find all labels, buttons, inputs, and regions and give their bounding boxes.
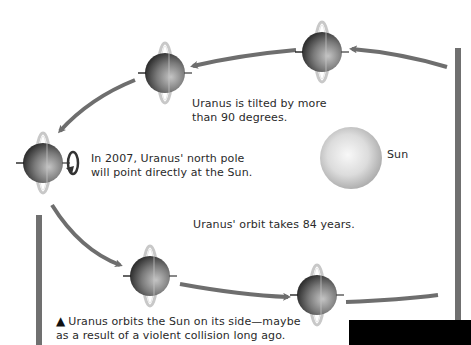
tilt-label: Uranus is tilted by more than 90 degrees… (192, 97, 327, 125)
rotation-arrow-icon (66, 152, 78, 174)
figure-caption: ▲Uranus orbits the Sun on its side—maybe… (56, 314, 301, 343)
orbit-line-bottom-right-to-right (346, 295, 438, 302)
sun-icon (320, 127, 382, 189)
orbit-arrow-top-left-to-left (60, 80, 135, 131)
right-frame-bar (455, 48, 461, 320)
orbit-arrow-right-to-top-right (352, 49, 447, 67)
orbit-arrow-left-to-bottom-left (52, 205, 120, 265)
sun-label: Sun (387, 148, 408, 162)
north-pole-label: In 2007, Uranus' north pole will point d… (91, 152, 252, 180)
orbit-arrow-top-right-to-top-left (193, 50, 296, 66)
uranus-planet-icon (138, 43, 192, 103)
triangle-marker-icon: ▲ (56, 314, 65, 328)
uranus-planet-icon (16, 133, 70, 193)
orbit-period-label: Uranus' orbit takes 84 years. (193, 218, 355, 232)
left-frame-bar (36, 215, 42, 345)
orbit-arrow-bottom-left-to-bottom-right (180, 284, 288, 297)
uranus-planet-icon (123, 246, 177, 306)
black-overlay-box (349, 320, 471, 345)
uranus-planet-icon (295, 22, 349, 82)
